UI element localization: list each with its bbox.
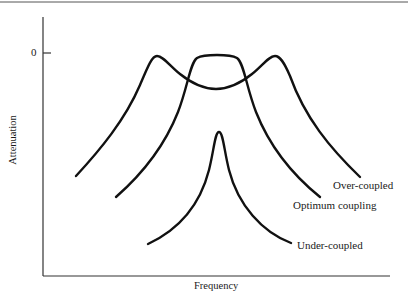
under-coupled-label: Under-coupled <box>297 239 363 251</box>
x-axis-label: Frequency <box>194 280 238 291</box>
coupling-response-diagram <box>0 0 408 297</box>
over-coupled-label: Over-coupled <box>333 179 393 191</box>
under-coupled-curve <box>148 132 291 244</box>
optimum-coupling-label: Optimum coupling <box>293 199 376 211</box>
over-coupled-curve <box>76 56 360 177</box>
y-axis-label: Attenuation <box>7 115 18 165</box>
zero-tick-label: 0 <box>31 46 37 58</box>
